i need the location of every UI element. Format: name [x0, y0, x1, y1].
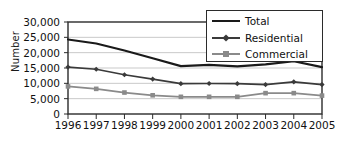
x-tick-label: 2002 — [222, 120, 252, 131]
legend-label-total: Total — [245, 15, 270, 27]
legend-line — [212, 20, 240, 22]
x-tick-label: 1999 — [138, 120, 168, 131]
legend-item-commercial: Commercial — [212, 47, 308, 61]
x-tick-label: 1996 — [53, 120, 83, 131]
legend-swatch-residential — [212, 32, 240, 44]
legend-label-commercial: Commercial — [245, 48, 308, 60]
x-tick-label: 2001 — [194, 120, 224, 131]
x-tick-label: 1998 — [109, 120, 139, 131]
x-tick-label: 1997 — [81, 120, 111, 131]
legend-marker — [222, 34, 229, 41]
x-tick-label: 2004 — [279, 120, 309, 131]
x-tick-label: 2005 — [307, 120, 337, 131]
legend-swatch-total — [212, 15, 240, 27]
legend-swatch-commercial — [212, 48, 240, 60]
legend-item-residential: Residential — [212, 31, 303, 45]
legend-label-residential: Residential — [245, 32, 303, 44]
legend-marker — [223, 51, 229, 57]
x-tick-label: 2000 — [166, 120, 196, 131]
legend-item-total: Total — [212, 14, 270, 28]
x-tick-label: 2003 — [251, 120, 281, 131]
legend: Total Residential Commercial — [206, 10, 323, 62]
